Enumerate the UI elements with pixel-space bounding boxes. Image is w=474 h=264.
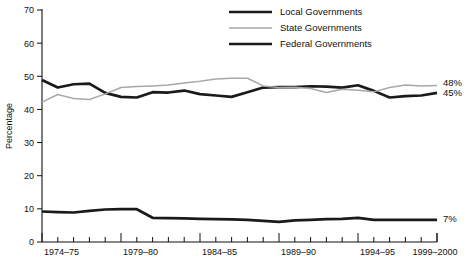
- chart-legend: Local GovernmentsState GovernmentsFedera…: [229, 6, 372, 49]
- legend-label: Local Governments: [280, 6, 363, 17]
- end-value-label: 45%: [443, 87, 463, 98]
- x-axis-tick-label: 1994–95: [360, 247, 395, 257]
- y-axis-tick-label: 60: [24, 39, 34, 49]
- y-axis-tick-label: 0: [29, 237, 34, 247]
- y-axis-tick-label: 70: [24, 5, 34, 15]
- legend-label: State Governments: [280, 22, 362, 33]
- x-axis-tick-label: 1984–85: [202, 247, 237, 257]
- y-axis-tick-label: 10: [24, 204, 34, 214]
- line-chart: 010203040506070 1974–751979–801984–85198…: [0, 0, 474, 264]
- series-lines: [42, 78, 437, 222]
- y-axis-tick-label: 30: [24, 138, 34, 148]
- end-value-label: 7%: [443, 213, 457, 224]
- x-axis-tick-label: 1974–75: [44, 247, 79, 257]
- series-line-federal-governments: [42, 209, 437, 222]
- y-axis-tick-label: 20: [24, 171, 34, 181]
- x-axis-tick-label: 1989–90: [281, 247, 316, 257]
- y-axis-tick-label: 50: [24, 72, 34, 82]
- end-value-labels: 48%45%7%: [443, 77, 463, 224]
- x-axis-tick-label: 1999–2000: [412, 247, 457, 257]
- y-axis-title: Percentage: [4, 103, 14, 149]
- chart-container: 010203040506070 1974–751979–801984–85198…: [0, 0, 474, 264]
- x-axis: 1974–751979–801984–851989–901994–951999–…: [42, 233, 458, 257]
- y-axis: 010203040506070: [24, 5, 42, 247]
- y-axis-tick-label: 40: [24, 105, 34, 115]
- legend-label: Federal Governments: [280, 38, 372, 49]
- x-axis-tick-label: 1979–80: [123, 247, 158, 257]
